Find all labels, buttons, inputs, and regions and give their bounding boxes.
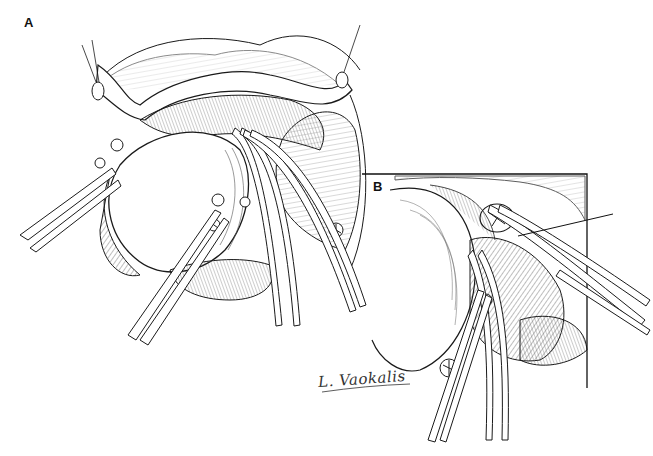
surgical-illustration: A B L. Vaokalis <box>0 0 653 456</box>
panel-label-a: A <box>24 16 33 29</box>
panel-a-drawing <box>82 25 366 300</box>
panel-label-b: B <box>373 180 382 193</box>
